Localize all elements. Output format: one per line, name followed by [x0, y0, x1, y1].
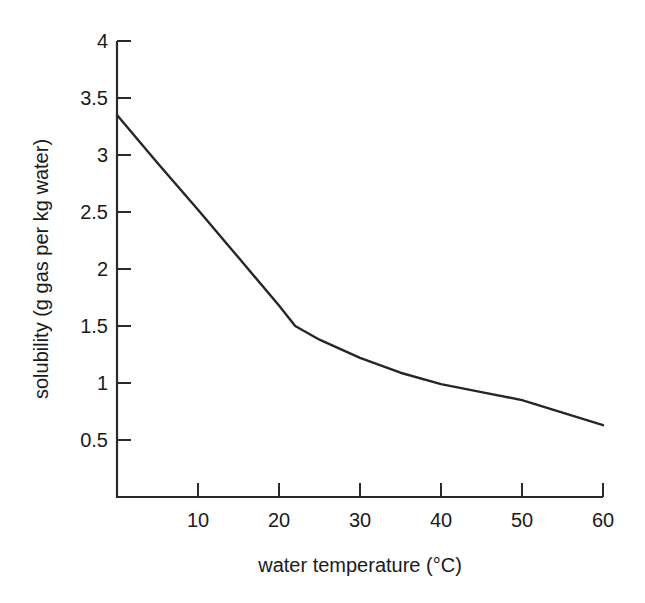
y-tick-label: 1 [97, 372, 108, 394]
y-axis-title: solubility (g gas per kg water) [30, 139, 52, 399]
y-tick-label: 4 [97, 30, 108, 52]
x-tick-label: 30 [349, 509, 371, 531]
y-tick-label: 2.5 [80, 201, 108, 223]
y-tick-label: 3.5 [80, 87, 108, 109]
x-axis-tick-labels: 10 20 30 40 50 60 [187, 509, 614, 531]
x-axis-title: water temperature (°C) [257, 554, 462, 576]
x-tick-label: 20 [268, 509, 290, 531]
y-tick-label: 3 [97, 144, 108, 166]
y-axis-ticks [117, 41, 131, 440]
solubility-curve [117, 115, 603, 425]
y-tick-label: 2 [97, 258, 108, 280]
line-chart: 4 3.5 3 2.5 2 1.5 1 0.5 10 20 30 40 50 6… [0, 0, 645, 603]
y-tick-label: 0.5 [80, 429, 108, 451]
x-tick-label: 40 [430, 509, 452, 531]
x-tick-label: 60 [592, 509, 614, 531]
x-axis-ticks [198, 483, 603, 497]
axis-spines [117, 41, 603, 497]
y-axis-tick-labels: 4 3.5 3 2.5 2 1.5 1 0.5 [80, 30, 108, 451]
x-tick-label: 10 [187, 509, 209, 531]
y-tick-label: 1.5 [80, 315, 108, 337]
x-tick-label: 50 [511, 509, 533, 531]
chart-figure: 4 3.5 3 2.5 2 1.5 1 0.5 10 20 30 40 50 6… [0, 0, 645, 603]
